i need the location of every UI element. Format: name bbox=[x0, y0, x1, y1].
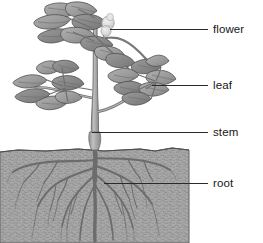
label-flower: flower bbox=[213, 24, 244, 36]
leaf-cluster-top bbox=[34, 2, 135, 68]
diagram-canvas bbox=[0, 0, 263, 243]
label-stem: stem bbox=[213, 127, 238, 139]
plant-parts-diagram: flower leaf stem root bbox=[0, 0, 263, 243]
label-leaf: leaf bbox=[213, 80, 232, 92]
label-root: root bbox=[213, 178, 233, 190]
leaf-cluster-left bbox=[13, 60, 92, 110]
